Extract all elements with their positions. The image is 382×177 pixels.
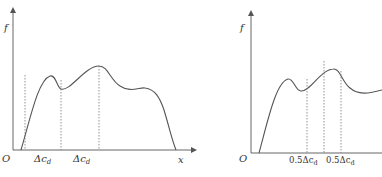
left-panel: f O x Δcd Δcd (2, 10, 194, 166)
right-origin-label: O (239, 153, 247, 164)
left-x-axis-label: x (178, 154, 184, 165)
left-y-axis-label: f (3, 22, 10, 33)
left-interval-label-2: Δcd (72, 153, 91, 166)
right-interval-label-1: 0.5Δcd (289, 155, 318, 167)
right-interval-label-2: 0.5Δcd (326, 155, 355, 167)
left-distribution-curve (21, 66, 176, 150)
right-distribution-curve (259, 69, 382, 153)
right-panel: f O 0.5Δcd 0.5Δcd (239, 13, 382, 167)
left-interval-label-1: Δcd (33, 153, 52, 166)
right-y-axis-label: f (239, 22, 246, 33)
left-origin-label: O (2, 153, 10, 164)
diagram-canvas: f O x Δcd Δcd f O 0.5Δcd 0.5Δcd (0, 0, 382, 177)
